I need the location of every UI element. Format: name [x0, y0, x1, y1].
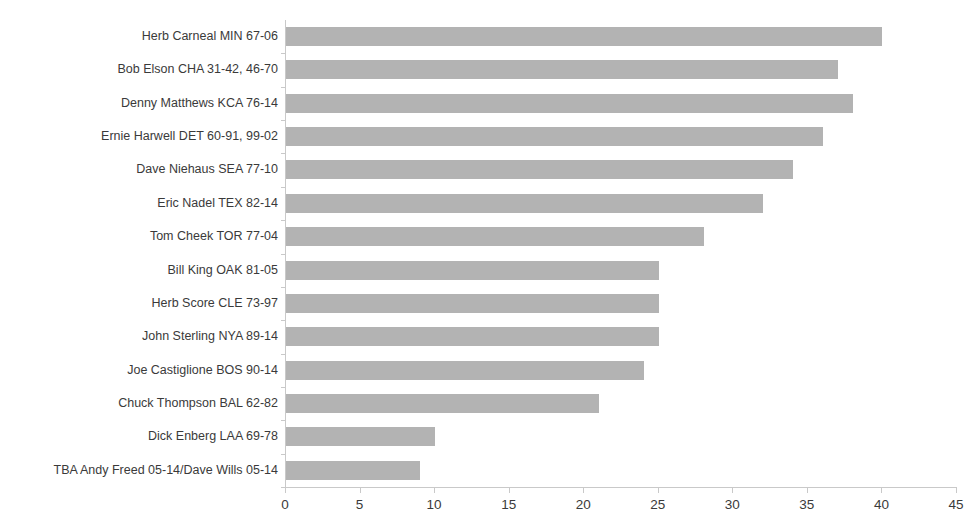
value-axis-tick-label: 15 [479, 497, 539, 512]
category-axis-tick [281, 153, 285, 154]
value-axis-tick-label: 10 [404, 497, 464, 512]
bar [286, 94, 853, 113]
bar [286, 227, 704, 246]
value-axis-tick [658, 488, 659, 493]
value-axis-tick [881, 488, 882, 493]
category-axis-tick [281, 420, 285, 421]
category-axis-tick [281, 254, 285, 255]
value-axis-tick [807, 488, 808, 493]
value-axis-tick-label: 40 [851, 497, 911, 512]
value-axis-tick-label: 20 [553, 497, 613, 512]
value-axis-tick [360, 488, 361, 493]
category-label: Herb Score CLE 73-97 [0, 296, 278, 310]
category-label: Eric Nadel TEX 82-14 [0, 196, 278, 210]
value-axis-tick [732, 488, 733, 493]
value-axis-tick-label: 25 [628, 497, 688, 512]
bar [286, 394, 599, 413]
value-axis-line [285, 487, 957, 488]
category-label: Joe Castiglione BOS 90-14 [0, 363, 278, 377]
category-label: Dick Enberg LAA 69-78 [0, 429, 278, 443]
category-axis-tick [281, 354, 285, 355]
category-label: Ernie Harwell DET 60-91, 99-02 [0, 129, 278, 143]
bar [286, 461, 420, 480]
category-axis-tick [281, 320, 285, 321]
category-axis-tick [281, 120, 285, 121]
value-axis-tick-label: 45 [926, 497, 973, 512]
bar [286, 427, 435, 446]
bar [286, 194, 763, 213]
category-axis-tick [281, 287, 285, 288]
category-axis-line [285, 20, 286, 487]
category-label: Dave Niehaus SEA 77-10 [0, 162, 278, 176]
value-axis-tick-label: 0 [255, 497, 315, 512]
bar-chart: Herb Carneal MIN 67-06Bob Elson CHA 31-4… [0, 0, 973, 521]
value-axis-tick-label: 5 [330, 497, 390, 512]
category-axis-tick [281, 53, 285, 54]
category-label: Herb Carneal MIN 67-06 [0, 29, 278, 43]
category-label: Denny Matthews KCA 76-14 [0, 96, 278, 110]
category-label: Bill King OAK 81-05 [0, 263, 278, 277]
bar [286, 361, 644, 380]
plot-area: 051015202530354045 [285, 20, 956, 487]
bar [286, 294, 659, 313]
bar [286, 327, 659, 346]
category-label: TBA Andy Freed 05-14/Dave Wills 05-14 [0, 463, 278, 477]
bar [286, 127, 823, 146]
value-axis-tick [956, 488, 957, 493]
value-axis-tick [434, 488, 435, 493]
value-axis-tick-label: 35 [777, 497, 837, 512]
bar [286, 60, 838, 79]
category-axis-tick [281, 387, 285, 388]
value-axis-tick [583, 488, 584, 493]
category-axis-tick [281, 187, 285, 188]
value-axis-tick [285, 488, 286, 493]
category-axis-tick [281, 220, 285, 221]
category-label: Tom Cheek TOR 77-04 [0, 229, 278, 243]
category-label: Chuck Thompson BAL 62-82 [0, 396, 278, 410]
category-axis-tick [281, 454, 285, 455]
value-axis-tick [509, 488, 510, 493]
category-label: John Sterling NYA 89-14 [0, 329, 278, 343]
bar [286, 160, 793, 179]
category-label: Bob Elson CHA 31-42, 46-70 [0, 62, 278, 76]
value-axis-tick-label: 30 [702, 497, 762, 512]
bar [286, 261, 659, 280]
bar [286, 27, 882, 46]
category-axis-tick [281, 87, 285, 88]
